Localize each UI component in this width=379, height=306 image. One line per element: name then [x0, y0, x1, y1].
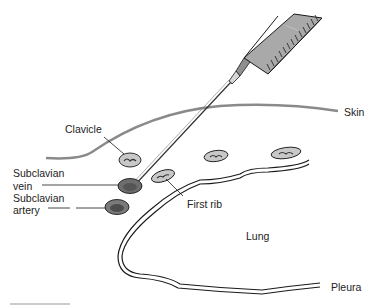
needle [133, 82, 231, 187]
label-pleura: Pleura [331, 281, 361, 293]
first-rib-bone [150, 167, 176, 185]
label-subclavian-artery-1: Subclavian [13, 192, 64, 204]
label-clavicle: Clavicle [65, 123, 102, 135]
diagram-canvas [0, 0, 379, 306]
label-skin: Skin [344, 106, 364, 118]
label-subclavian-vein-1: Subclavian [13, 167, 64, 179]
label-lung: Lung [246, 230, 269, 242]
label-first-rib: First rib [187, 198, 222, 210]
clavicle-bone [119, 153, 141, 167]
rib-bone [203, 149, 228, 163]
label-subclavian-vein-2: vein [13, 180, 32, 192]
syringe-icon [131, 14, 322, 187]
rib-bone [270, 145, 301, 160]
pleura-line [118, 160, 320, 294]
label-subclavian-artery-2: artery [13, 204, 40, 216]
